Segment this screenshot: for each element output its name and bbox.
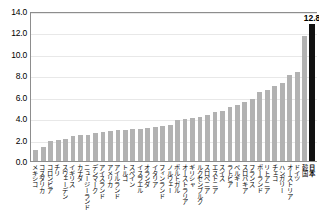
category-label: ハンガリー: [279, 164, 286, 213]
bar[interactable]: [48, 141, 53, 161]
bar-item[interactable]: [204, 13, 211, 161]
bar[interactable]: [145, 128, 150, 161]
category-label-slot: イスラエル: [136, 164, 144, 213]
bar-highlighted[interactable]: [309, 24, 314, 161]
bar[interactable]: [198, 117, 203, 161]
category-label-slot: ハンガリー: [279, 164, 287, 213]
bar[interactable]: [228, 107, 233, 161]
bar-item[interactable]: [249, 13, 256, 161]
bar-item[interactable]: [137, 13, 144, 161]
bar-item[interactable]: [174, 13, 181, 161]
bar-item[interactable]: [241, 13, 248, 161]
bar[interactable]: [41, 147, 46, 161]
bar-item[interactable]: [278, 13, 285, 161]
bar-item[interactable]: [226, 13, 233, 161]
bar-item[interactable]: [219, 13, 226, 161]
bar-item[interactable]: [196, 13, 203, 161]
bar[interactable]: [78, 135, 83, 161]
bar[interactable]: [265, 90, 270, 161]
bar-item[interactable]: [234, 13, 241, 161]
category-label-slot: チェコ: [271, 164, 279, 213]
bar[interactable]: [205, 115, 210, 161]
bar-item[interactable]: [122, 13, 129, 161]
bar-item[interactable]: [271, 13, 278, 161]
bar[interactable]: [33, 150, 38, 161]
bar-item[interactable]: [286, 13, 293, 161]
category-label-slot: アイスランド: [99, 164, 107, 213]
bar[interactable]: [235, 105, 240, 161]
bar[interactable]: [250, 99, 255, 161]
category-label: ポーランド: [256, 164, 263, 213]
bar-item[interactable]: [301, 13, 308, 161]
category-label: カナダ: [76, 164, 83, 213]
bar[interactable]: [130, 129, 135, 161]
bar[interactable]: [108, 131, 113, 161]
bar-item[interactable]: [54, 13, 61, 161]
category-label-slot: フィンランド: [159, 164, 167, 213]
category-label-slot: スイス: [219, 164, 227, 213]
bar-item[interactable]: [189, 13, 196, 161]
bar-item[interactable]: [84, 13, 91, 161]
category-label: イギリス: [69, 164, 76, 213]
category-label: デンマーク: [91, 164, 98, 213]
bar[interactable]: [71, 136, 76, 161]
bar[interactable]: [280, 83, 285, 161]
bar[interactable]: [160, 126, 165, 161]
bar[interactable]: [116, 130, 121, 161]
bar-item[interactable]: 12.8: [308, 13, 315, 161]
bar[interactable]: [138, 129, 143, 161]
bar[interactable]: [153, 127, 158, 161]
category-label: ドイツ: [294, 164, 301, 213]
category-label: ギリシャ: [189, 164, 196, 213]
bar-item[interactable]: [107, 13, 114, 161]
bar-item[interactable]: [62, 13, 69, 161]
bar-item[interactable]: [256, 13, 263, 161]
bar[interactable]: [242, 102, 247, 161]
bar[interactable]: [302, 36, 307, 161]
bar[interactable]: [63, 139, 68, 162]
bar-item[interactable]: [129, 13, 136, 161]
category-label-slot: ルクセンブルク: [196, 164, 204, 213]
bar[interactable]: [272, 86, 277, 161]
bar-item[interactable]: [32, 13, 39, 161]
bar-item[interactable]: [152, 13, 159, 161]
bar-item[interactable]: [39, 13, 46, 161]
bar-item[interactable]: [181, 13, 188, 161]
bar[interactable]: [295, 72, 300, 161]
bar[interactable]: [287, 75, 292, 161]
category-label: アイルランド: [114, 164, 121, 213]
bar[interactable]: [190, 118, 195, 161]
category-label: メキシコ: [31, 164, 38, 213]
bar[interactable]: [213, 112, 218, 161]
category-label-slot: エストニア: [211, 164, 219, 213]
bar-item[interactable]: [92, 13, 99, 161]
bar-item[interactable]: [144, 13, 151, 161]
bar[interactable]: [257, 92, 262, 161]
category-label: ラトビア: [226, 164, 233, 213]
bar[interactable]: [123, 130, 128, 161]
bar[interactable]: [183, 119, 188, 161]
bar[interactable]: [56, 140, 61, 161]
bar[interactable]: [175, 120, 180, 161]
bar[interactable]: [86, 135, 91, 161]
bar-item[interactable]: [293, 13, 300, 161]
category-label-slot: ベルギー: [234, 164, 242, 213]
category-label-slot: トルコ: [121, 164, 129, 213]
bar[interactable]: [220, 111, 225, 161]
bar-item[interactable]: [211, 13, 218, 161]
bar-item[interactable]: [69, 13, 76, 161]
bar-item[interactable]: [159, 13, 166, 161]
category-label: イスラエル: [136, 164, 143, 213]
y-axis-tick-label: 8.0: [16, 71, 27, 81]
category-label: 韓国: [301, 164, 308, 213]
bar-item[interactable]: [166, 13, 173, 161]
category-axis-labels: メキシココスタリカコロンビアチリスウェーデンイギリスカナダニュージーランドデンマ…: [30, 164, 317, 213]
bar-item[interactable]: [114, 13, 121, 161]
bar-item[interactable]: [47, 13, 54, 161]
bar[interactable]: [101, 132, 106, 161]
bar[interactable]: [93, 133, 98, 161]
bar-item[interactable]: [264, 13, 271, 161]
bar-item[interactable]: [99, 13, 106, 161]
bar[interactable]: [168, 125, 173, 161]
bar-item[interactable]: [77, 13, 84, 161]
